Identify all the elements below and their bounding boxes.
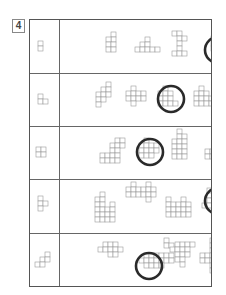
- option-shape-3[interactable]: [172, 31, 187, 56]
- answer-circle: [205, 37, 211, 63]
- option-shape-4[interactable]: [200, 238, 211, 273]
- puzzle-row-5: [30, 233, 211, 288]
- option-shape-1[interactable]: [106, 32, 116, 52]
- option-shape-1[interactable]: [96, 82, 111, 107]
- option-shape-3[interactable]: [172, 129, 187, 159]
- option-shape-1[interactable]: [95, 192, 115, 222]
- option-shape-2[interactable]: [126, 86, 146, 106]
- reference-shape: [36, 147, 46, 157]
- option-shape-2[interactable]: [126, 182, 156, 202]
- question-number: 4: [12, 19, 25, 33]
- reference-shape: [35, 252, 50, 267]
- puzzle-table: [29, 19, 212, 287]
- puzzle-row-2: [30, 73, 211, 127]
- option-shape-4[interactable]: [205, 139, 211, 159]
- option-shape-1[interactable]: [100, 138, 125, 163]
- option-shape-2[interactable]: [135, 37, 160, 52]
- puzzle-row-3: [30, 126, 211, 180]
- reference-shape: [38, 196, 48, 211]
- puzzle-row-1: [30, 20, 211, 73]
- reference-shape: [38, 94, 48, 104]
- reference-shape: [38, 41, 43, 51]
- option-shape-3[interactable]: [166, 197, 191, 217]
- puzzle-row-4: [30, 179, 211, 234]
- option-shape-4[interactable]: [194, 86, 211, 106]
- option-shape-1[interactable]: [98, 242, 123, 257]
